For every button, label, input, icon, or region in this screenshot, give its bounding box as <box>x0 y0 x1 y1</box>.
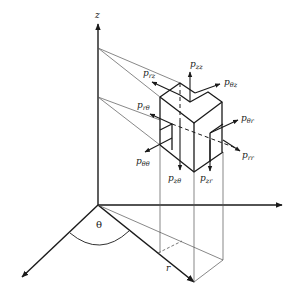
label-pthth: pθθ <box>136 157 150 168</box>
label-prth: prθ <box>137 101 150 112</box>
theta-zero-axis <box>22 205 98 277</box>
label-prr: prr <box>242 151 254 162</box>
diagram-svg <box>0 0 301 296</box>
arrow-pthr <box>210 120 238 133</box>
r-axis-label: r <box>166 264 170 273</box>
label-pzz: pzz <box>190 60 203 71</box>
arrow-prth <box>150 114 172 124</box>
theta-arc <box>70 231 129 245</box>
stress-element <box>160 83 236 172</box>
base-dashed-line <box>158 241 182 253</box>
r-axis <box>98 205 194 282</box>
label-pzr: pzr <box>200 174 212 185</box>
arrow-prr <box>223 140 240 151</box>
label-prz: prz <box>143 69 155 80</box>
label-pzth: pzθ <box>168 174 181 185</box>
theta-label: θ <box>96 220 102 230</box>
z-axis-label: z <box>95 11 100 20</box>
projection-lines <box>98 48 223 260</box>
label-pthz: pθz <box>224 78 237 89</box>
arrow-pthth <box>145 138 172 152</box>
diagram-canvas: z θ r pzz prz pθz prθ pθr pθθ prr pzθ pz… <box>0 0 301 296</box>
label-pthr: pθr <box>241 114 254 125</box>
